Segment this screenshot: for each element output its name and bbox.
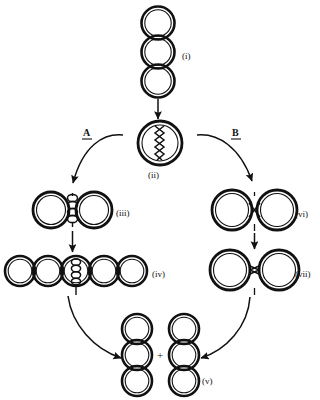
stage-label-i: (i): [182, 51, 191, 61]
stage-label-vii: (vii): [295, 269, 311, 279]
plus-sign: +: [157, 349, 163, 361]
stage-label-iii: (iii): [116, 208, 130, 218]
branch-label-b: B: [232, 127, 239, 138]
recombination-pathway-diagram: (i) (ii) A B: [0, 0, 320, 400]
diagram-root: (i) (ii) A B: [0, 0, 320, 400]
stage-label-iv: (iv): [152, 269, 165, 279]
stage-label-vi: (vi): [295, 209, 308, 219]
diagram-background: [0, 0, 320, 400]
stage-label-v: (v): [202, 376, 213, 386]
branch-label-a: A: [83, 127, 91, 138]
stage-label-ii: (ii): [148, 170, 159, 180]
